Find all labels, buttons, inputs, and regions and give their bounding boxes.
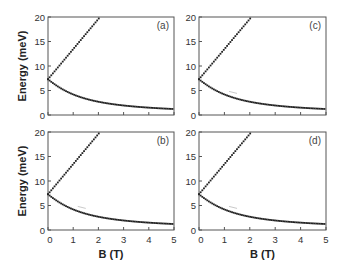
data-points: [198, 133, 325, 225]
x-axis-title: B (T): [98, 248, 123, 260]
anticrossing-marker: [229, 206, 237, 208]
anticrossing-marker: [229, 91, 237, 93]
y-tick-label: 0: [191, 225, 196, 236]
plot-frame: [199, 17, 326, 115]
x-tick-label: 1: [71, 234, 76, 245]
panel-label: (c): [309, 20, 321, 31]
y-tick-label: 0: [191, 110, 196, 121]
y-tick-label: 10: [34, 61, 45, 72]
y-tick-label: 10: [185, 61, 196, 72]
x-tick-label: 4: [298, 234, 303, 245]
y-tick-label: 20: [34, 12, 45, 23]
x-tick-label: 0: [47, 234, 52, 245]
y-axis-title: Energy (meV): [16, 145, 28, 216]
panel-b: 05101520012345(b)Energy (meV)B (T): [16, 127, 177, 261]
x-tick-label: 4: [146, 234, 151, 245]
x-tick-label: 0: [198, 234, 203, 245]
y-tick-label: 15: [34, 151, 45, 162]
x-tick-label: 2: [96, 234, 101, 245]
y-tick-label: 5: [40, 85, 45, 96]
y-tick-label: 10: [185, 176, 196, 187]
x-tick-label: 1: [222, 234, 227, 245]
plot-frame: [199, 132, 326, 230]
x-axis-title: B (T): [250, 248, 275, 260]
y-tick-label: 15: [185, 36, 196, 47]
y-tick-label: 10: [34, 176, 45, 187]
y-tick-label: 20: [185, 127, 196, 138]
panel-label: (d): [309, 135, 321, 146]
data-points: [198, 18, 325, 110]
figure-four-panel-energy-vs-field: 05101520(a)Energy (meV)05101520(c)051015…: [0, 0, 345, 270]
y-tick-label: 5: [191, 200, 196, 211]
panel-a: 05101520(a)Energy (meV): [16, 12, 174, 121]
y-axis-title: Energy (meV): [16, 30, 28, 101]
y-tick-label: 20: [34, 127, 45, 138]
y-tick-label: 15: [34, 36, 45, 47]
x-tick-label: 5: [323, 234, 328, 245]
panel-label: (a): [157, 20, 169, 31]
plot-frame: [48, 132, 174, 230]
data-points: [47, 18, 173, 110]
x-tick-label: 3: [273, 234, 278, 245]
y-tick-label: 5: [40, 200, 45, 211]
y-tick-label: 0: [40, 110, 45, 121]
y-tick-label: 5: [191, 85, 196, 96]
panel-c: 05101520(c): [185, 12, 326, 121]
x-tick-label: 2: [247, 234, 252, 245]
panel-d: 05101520012345(d)B (T): [185, 127, 328, 261]
data-points: [47, 133, 173, 225]
y-tick-label: 0: [40, 225, 45, 236]
anticrossing-marker: [78, 206, 86, 208]
y-tick-label: 20: [185, 12, 196, 23]
panel-label: (b): [157, 135, 169, 146]
x-tick-label: 5: [171, 234, 176, 245]
x-tick-label: 3: [121, 234, 126, 245]
plot-frame: [48, 17, 174, 115]
y-tick-label: 15: [185, 151, 196, 162]
